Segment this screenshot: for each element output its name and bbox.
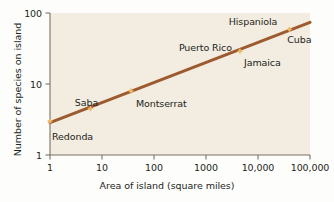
point-label-saba: Saba xyxy=(75,97,98,108)
point-label-hispaniola: Hispaniola xyxy=(229,16,278,27)
y-axis-title: Number of species on island xyxy=(12,15,23,165)
x-axis-title: Area of island (square miles) xyxy=(0,180,334,191)
point-label-cuba: Cuba xyxy=(287,34,311,45)
x-axis-tick-label: 1 xyxy=(47,162,53,173)
x-axis-ticks xyxy=(50,155,310,160)
x-axis-tick-label: 10 xyxy=(96,162,108,173)
point-label-puerto-rico: Puerto Rico xyxy=(179,42,232,53)
x-axis-tick-label: 100,000 xyxy=(291,162,330,173)
point-label-redonda: Redonda xyxy=(52,131,93,142)
x-axis-tick-label: 1000 xyxy=(194,162,218,173)
chart-figure: 110100100010,000100,000 100101 RedondaSa… xyxy=(0,0,334,202)
x-axis-tick-label: 100 xyxy=(145,162,163,173)
point-label-jamaica: Jamaica xyxy=(244,57,281,68)
y-axis-ticks xyxy=(46,13,51,155)
x-axis-tick-label: 10,000 xyxy=(242,162,275,173)
point-label-montserrat: Montserrat xyxy=(136,98,187,109)
